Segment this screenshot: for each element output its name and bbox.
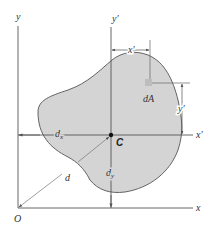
centroid-diagram: y x O y′ x′ x′ y′ dA C dx dy d — [0, 0, 216, 233]
x-axis-label: x — [195, 202, 201, 213]
centroid-point — [109, 133, 113, 137]
d-vector-lower — [19, 174, 62, 207]
x-prime-dim-label: x′ — [127, 44, 135, 55]
area-element-dA — [145, 79, 152, 86]
y-prime-dim-label: y′ — [177, 103, 185, 114]
origin-label: O — [14, 213, 21, 224]
centroid-label: C — [116, 137, 124, 148]
element-label: dA — [143, 93, 155, 104]
y-prime-axis-label: y′ — [111, 13, 119, 24]
y-axis-label: y — [15, 11, 21, 22]
d-label: d — [65, 172, 71, 183]
x-prime-axis-label: x′ — [195, 129, 203, 140]
